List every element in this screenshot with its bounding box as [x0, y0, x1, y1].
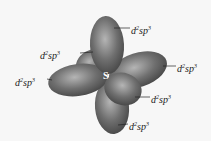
orbital-label-left: d2sp3: [15, 75, 35, 88]
orbital-label-top: d2sp3: [131, 23, 151, 36]
orbital-label-lower-right: d2sp3: [151, 92, 171, 105]
orbital-label-upper-left: d2sp3: [40, 48, 60, 61]
orbital-label-bottom: d2sp3: [129, 119, 149, 132]
orbital-label-right: d2sp3: [177, 61, 197, 74]
center-atom-label: S: [103, 70, 109, 81]
